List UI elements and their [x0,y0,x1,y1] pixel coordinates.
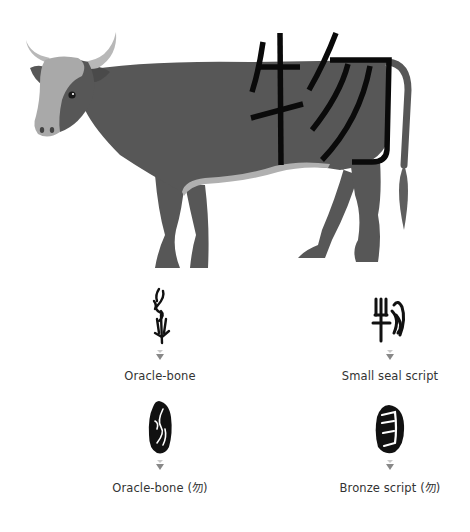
script-oracle-bone: Oracle-bone [80,285,240,383]
cow-nostril-right [50,127,54,133]
script-small-seal: Small seal script [310,285,470,383]
cow-illustration [0,0,470,280]
caption-oracle-bone: Oracle-bone [80,369,240,383]
oracle-bone-glyph-icon [145,287,175,345]
bronze-wu-glyph-icon [373,403,407,455]
cow-hind-leg-left [298,165,358,258]
script-oracle-bone-wu: Oracle-bone (勿) [80,395,240,495]
cow-tail-tuft [399,165,408,230]
caption-oracle-bone-wu: Oracle-bone (勿) [80,479,240,495]
down-arrow-icon [155,349,165,361]
cow-hind-leg-right [350,160,381,262]
cow-nostril-left [40,127,44,133]
caption-small-seal: Small seal script [310,369,470,383]
cow-front-leg-right [185,185,209,268]
down-arrow-icon [385,459,395,471]
character-evolution-diagram: Oracle-bone Small sea [0,0,470,532]
script-bronze-wu: Bronze script (勿) [310,395,470,495]
oracle-bone-wu-glyph-icon [145,399,175,455]
cow-horn-left [26,40,50,62]
caption-bronze-wu: Bronze script (勿) [310,479,470,495]
down-arrow-icon [155,459,165,471]
small-seal-glyph-icon [370,295,410,345]
down-arrow-icon [385,349,395,361]
cow-eye [68,91,75,98]
